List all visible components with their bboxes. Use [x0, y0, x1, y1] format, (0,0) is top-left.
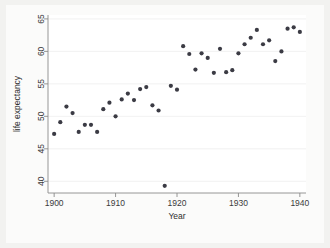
data-point	[206, 56, 210, 60]
data-point	[101, 107, 105, 111]
data-point	[199, 51, 203, 55]
data-point	[144, 85, 148, 89]
data-point	[193, 67, 197, 71]
data-point	[181, 44, 185, 48]
x-axis-title: Year	[168, 211, 185, 221]
data-point	[163, 184, 167, 188]
data-point	[169, 84, 173, 88]
data-point	[279, 49, 283, 53]
data-point	[138, 87, 142, 91]
figure-inner-panel: 404550556065 19001910192019301940 life e…	[6, 5, 324, 243]
y-tick-label: 60	[36, 46, 46, 56]
data-point	[52, 132, 56, 136]
x-tick-label: 1900	[45, 198, 64, 208]
x-tick-label: 1920	[168, 198, 187, 208]
data-point	[113, 114, 117, 118]
data-point	[77, 130, 81, 134]
data-point	[298, 30, 302, 34]
y-tick-label: 45	[36, 144, 46, 154]
data-point	[89, 123, 93, 127]
scatter-plot: 404550556065 19001910192019301940 life e…	[6, 5, 324, 243]
data-point	[236, 51, 240, 55]
plot-area-background	[48, 15, 306, 193]
y-tick-label: 55	[36, 79, 46, 89]
y-tick-label: 50	[36, 111, 46, 121]
data-point	[95, 130, 99, 134]
data-point	[249, 36, 253, 40]
data-point	[58, 120, 62, 124]
data-point	[187, 52, 191, 56]
data-point	[150, 103, 154, 107]
figure-canvas: 404550556065 19001910192019301940 life e…	[0, 0, 330, 248]
data-point	[292, 25, 296, 29]
data-point	[156, 108, 160, 112]
y-axis-ticks-group: 404550556065	[36, 14, 48, 186]
data-point	[242, 42, 246, 46]
x-tick-label: 1940	[290, 198, 309, 208]
data-point	[83, 123, 87, 127]
y-axis-title: life expectancy	[12, 75, 22, 132]
data-point	[230, 68, 234, 72]
data-point	[70, 111, 74, 115]
data-point	[126, 92, 130, 96]
data-point	[132, 98, 136, 102]
data-point	[64, 104, 68, 108]
data-point	[120, 97, 124, 101]
data-point	[285, 27, 289, 31]
data-point	[261, 42, 265, 46]
x-axis-ticks-group: 19001910192019301940	[45, 193, 310, 208]
data-point	[255, 28, 259, 32]
data-point	[218, 47, 222, 51]
data-point	[107, 101, 111, 105]
x-tick-label: 1930	[229, 198, 248, 208]
data-point	[273, 59, 277, 63]
data-point	[224, 70, 228, 74]
x-tick-label: 1910	[106, 198, 125, 208]
data-point	[212, 71, 216, 75]
y-tick-label: 65	[36, 14, 46, 24]
plot-area-rect	[48, 15, 306, 193]
y-tick-label: 40	[36, 176, 46, 186]
data-point	[175, 88, 179, 92]
data-point	[267, 38, 271, 42]
